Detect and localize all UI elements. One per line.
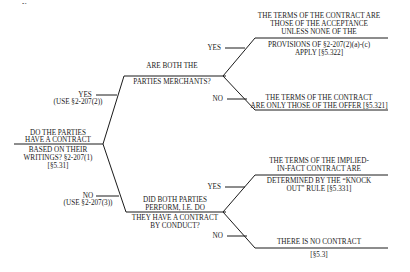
root-no-sublabel: (USE §2-207(3)) [64,199,114,207]
lower-no-label: NO [213,232,223,240]
lower-question-line: PERFORM, I.E. DO [145,204,205,212]
lower-yes-label: YES [207,183,221,191]
upper-no-outcome-line: THE TERMS OF THE CONTRACT [266,94,373,102]
lower-question-line: DID BOTH PARTIES [143,196,207,204]
root-node: DO THE PARTIES HAVE A CONTRACT BASED ON … [14,129,103,170]
lower-yes-outcome-line: DETERMINED BY THE “KNOCK [267,177,372,185]
root-question-line: BASED ON THEIR [29,146,88,154]
root-yes-sublabel: (USE §2-207(2)) [54,98,104,106]
lower-yes-outcome-line: THE TERMS OF THE IMPLIED- [269,157,369,165]
upper-yes-outcome-line: THOSE OF THE ACCEPTANCE [270,20,368,28]
lower-yes-outcome-line: IN-FACT CONTRACT ARE [277,165,361,173]
upper-yes-outcome-line: UNLESS NONE OF THE [281,28,357,36]
upper-yes-label: YES [207,44,221,52]
upper-decision-node: ARE BOTH THE PARTIES MERCHANTS? YES NO T… [133,12,388,110]
upper-no-outcome-line: ARE ONLY THOSE OF THE OFFER [§5.321] [250,102,387,110]
upper-question-line: ARE BOTH THE [146,62,198,70]
lower-yes-outcome-citation: OUT” RULE [§5.331] [287,185,352,193]
upper-yes-outcome-line: PROVISIONS OF §2-207(2)(a)-(c) [268,41,371,49]
lower-no-outcome-citation: [§5.3] [310,251,327,259]
upper-no-label: NO [213,95,223,103]
lower-question-line: BY CONDUCT? [150,222,199,230]
root-citation: [§5.31] [48,162,69,170]
upper-yes-outcome-citation: APPLY [§5.322] [295,49,343,57]
root-question-line: WRITINGS? §2-207(1) [24,154,93,162]
lower-question-line: THEY HAVE A CONTRACT [132,214,219,222]
decision-tree-diagram: DO THE PARTIES HAVE A CONTRACT BASED ON … [0,0,410,272]
upper-question-line: PARTIES MERCHANTS? [133,78,210,86]
root-yes-connector [103,76,226,144]
root-question-line: HAVE A CONTRACT [25,136,91,144]
lower-decision-node: DID BOTH PARTIES PERFORM, I.E. DO THEY H… [132,157,388,259]
upper-yes-outcome-line: THE TERMS OF THE CONTRACT ARE [258,12,381,20]
lower-no-outcome-line: THERE IS NO CONTRACT [277,238,362,246]
